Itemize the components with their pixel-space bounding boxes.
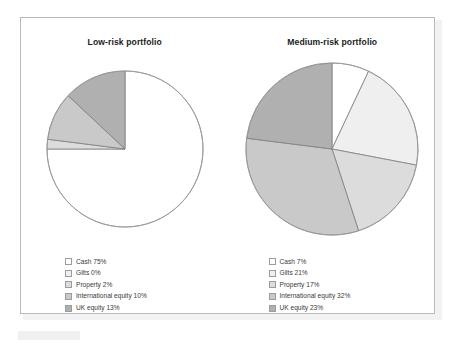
charts-container: Low-risk portfolio Cash 75% Gilts 0% [21, 18, 436, 315]
pie-svg-low-risk [44, 68, 206, 230]
legend-low-risk: Cash 75% Gilts 0% Property 2% Internatio… [65, 256, 147, 314]
legend-swatch-international-equity [65, 293, 72, 300]
legend-item-property: Property 2% [65, 279, 147, 291]
pie-chart-medium-risk [243, 60, 421, 238]
chart-title-medium-risk: Medium-risk portfolio [229, 37, 437, 47]
legend-label-international-equity: International equity 32% [280, 293, 351, 300]
legend-item-cash: Cash 7% [269, 256, 351, 268]
legend-swatch-gilts [269, 270, 276, 277]
legend-swatch-cash [65, 258, 72, 265]
legend-swatch-uk-equity [269, 305, 276, 312]
legend-label-uk-equity: UK equity 23% [280, 305, 324, 312]
legend-item-property: Property 17% [269, 279, 351, 291]
legend-label-international-equity: International equity 10% [76, 293, 147, 300]
chart-panel-low-risk: Low-risk portfolio Cash 75% Gilts 0% [21, 18, 229, 315]
scan-artifact [18, 331, 80, 340]
figure-frame: Low-risk portfolio Cash 75% Gilts 0% [20, 17, 435, 314]
legend-label-gilts: Gilts 21% [280, 270, 308, 277]
legend-medium-risk: Cash 7% Gilts 21% Property 17% Internati… [269, 256, 351, 314]
legend-label-property: Property 17% [280, 282, 320, 289]
pie-chart-low-risk [44, 68, 206, 230]
chart-title-low-risk: Low-risk portfolio [21, 37, 229, 47]
legend-label-cash: Cash 7% [280, 259, 307, 266]
legend-item-cash: Cash 75% [65, 256, 147, 268]
chart-panel-medium-risk: Medium-risk portfolio Cash 7% Gilts 21% [229, 18, 437, 315]
legend-label-uk-equity: UK equity 13% [76, 305, 120, 312]
legend-item-international-equity: International equity 32% [269, 291, 351, 303]
legend-swatch-uk-equity [65, 305, 72, 312]
legend-swatch-gilts [65, 270, 72, 277]
legend-item-gilts: Gilts 21% [269, 268, 351, 280]
legend-label-cash: Cash 75% [76, 259, 106, 266]
legend-item-uk-equity: UK equity 13% [65, 302, 147, 314]
legend-swatch-international-equity [269, 293, 276, 300]
legend-swatch-property [269, 281, 276, 288]
legend-label-property: Property 2% [76, 282, 112, 289]
pie-svg-medium-risk [243, 60, 421, 238]
legend-item-gilts: Gilts 0% [65, 268, 147, 280]
legend-swatch-property [65, 281, 72, 288]
figure-page: Low-risk portfolio Cash 75% Gilts 0% [0, 0, 463, 347]
legend-item-international-equity: International equity 10% [65, 291, 147, 303]
legend-label-gilts: Gilts 0% [76, 270, 101, 277]
legend-swatch-cash [269, 258, 276, 265]
legend-item-uk-equity: UK equity 23% [269, 302, 351, 314]
pie-slice-uk-equity [247, 63, 332, 149]
